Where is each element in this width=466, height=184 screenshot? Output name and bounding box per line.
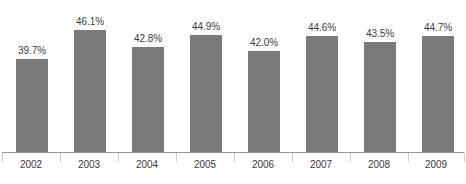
bar-group[interactable]: 42.8% — [132, 0, 164, 152]
category-label: 2004 — [136, 159, 158, 171]
category-label: 2002 — [20, 159, 42, 171]
bar-group[interactable]: 44.7% — [422, 0, 454, 152]
bar-value-label: 46.1% — [76, 16, 104, 27]
bar-value-label: 42.0% — [250, 37, 278, 48]
category-label-cell: 2004 — [118, 153, 176, 184]
bar-group[interactable]: 39.7% — [16, 0, 48, 152]
bar-rect[interactable] — [248, 51, 280, 152]
bar-rect[interactable] — [306, 36, 338, 152]
axis-tick — [464, 153, 465, 162]
bar-value-label: 43.5% — [366, 28, 394, 39]
bar-value-label: 44.9% — [192, 21, 220, 32]
category-label: 2009 — [425, 159, 447, 171]
bar-rect[interactable] — [422, 36, 454, 152]
category-label-cell: 2003 — [60, 153, 118, 184]
category-label: 2003 — [78, 159, 100, 171]
bar-value-label: 44.7% — [424, 22, 452, 33]
bar-rect[interactable] — [132, 47, 164, 152]
bar-value-label: 44.6% — [308, 22, 336, 33]
category-label-cell: 2005 — [176, 153, 234, 184]
category-label-cell: 2002 — [2, 153, 60, 184]
bar-group[interactable]: 43.5% — [364, 0, 396, 152]
bar-rect[interactable] — [16, 59, 48, 152]
plot-area: 39.7% 46.1% 42.8% 44.9% 42.0% 44.6% 43.5… — [0, 0, 466, 152]
category-label-cell: 2009 — [408, 153, 464, 184]
bar-chart: 39.7% 46.1% 42.8% 44.9% 42.0% 44.6% 43.5… — [0, 0, 466, 184]
bar-rect[interactable] — [364, 42, 396, 152]
category-label-cell: 2006 — [234, 153, 292, 184]
bar-rect[interactable] — [190, 35, 222, 152]
category-label: 2007 — [310, 159, 332, 171]
bar-value-label: 39.7% — [18, 45, 46, 56]
category-axis: 2002 2003 2004 2005 2006 2007 2008 2009 — [0, 153, 466, 184]
bar-value-label: 42.8% — [134, 33, 162, 44]
bar-group[interactable]: 46.1% — [74, 0, 106, 152]
bar-group[interactable]: 44.9% — [190, 0, 222, 152]
bar-group[interactable]: 42.0% — [248, 0, 280, 152]
category-label-cell: 2008 — [350, 153, 408, 184]
category-label: 2005 — [194, 159, 216, 171]
bar-group[interactable]: 44.6% — [306, 0, 338, 152]
category-label: 2006 — [252, 159, 274, 171]
category-label-cell: 2007 — [292, 153, 350, 184]
bar-rect[interactable] — [74, 30, 106, 152]
category-label: 2008 — [368, 159, 390, 171]
